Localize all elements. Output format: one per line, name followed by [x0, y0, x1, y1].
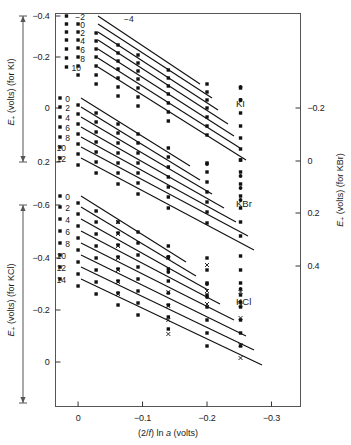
data-point	[167, 155, 170, 158]
data-point	[205, 115, 208, 118]
data-point	[94, 220, 97, 223]
annotation-ki-extra: −4	[124, 15, 134, 24]
data-point	[116, 171, 119, 174]
data-point	[76, 284, 79, 287]
data-point	[167, 195, 170, 198]
data-point	[65, 30, 68, 33]
data-point	[136, 230, 139, 233]
data-point	[205, 170, 208, 173]
data-point	[136, 104, 139, 107]
data-point	[65, 38, 68, 41]
data-point	[94, 256, 97, 259]
cross-data-point	[239, 356, 243, 360]
series-label-kcl-7: 14	[57, 276, 66, 285]
series-label-kbr-2: 4	[65, 114, 70, 123]
data-point	[116, 122, 119, 125]
left-bottom-axis-title: E+ (volts) (for KCl)	[7, 264, 18, 337]
data-point	[76, 46, 79, 49]
data-point	[205, 331, 208, 334]
data-point	[76, 22, 79, 25]
data-point	[94, 82, 97, 85]
data-point	[205, 98, 208, 101]
left-bottom-tick-label-0: −0.6	[33, 201, 50, 210]
fit-line-ki-2	[98, 32, 218, 110]
series-label-kcl-4: 8	[65, 240, 70, 249]
data-point	[65, 14, 68, 17]
data-point	[116, 85, 119, 88]
data-point	[205, 200, 208, 203]
fit-line-kbr-4	[81, 137, 236, 222]
left-bottom-tick-label-2: −0.2	[33, 306, 50, 315]
data-point	[76, 236, 79, 239]
data-point	[167, 165, 170, 168]
data-point	[205, 190, 208, 193]
data-point	[136, 289, 139, 292]
data-point	[136, 301, 139, 304]
data-point	[167, 92, 170, 95]
data-point	[239, 186, 243, 190]
data-point	[239, 281, 242, 284]
series-label-kbr-4: 8	[65, 134, 70, 143]
fit-line-ki-6	[98, 67, 246, 160]
cross-markers	[116, 220, 243, 360]
data-point	[136, 181, 139, 184]
data-point	[136, 61, 139, 64]
data-point	[94, 31, 97, 34]
data-point	[167, 146, 170, 149]
data-point	[205, 268, 208, 271]
right-axis-ticks	[296, 108, 301, 266]
data-point	[76, 112, 79, 115]
axis-range-brackets	[19, 16, 27, 403]
fit-lines	[81, 16, 262, 365]
data-point	[116, 161, 119, 164]
data-point	[167, 327, 170, 330]
data-point	[76, 152, 79, 155]
series-label-kcl-1: 2	[65, 204, 70, 213]
group-label-kbr: KBr	[236, 199, 252, 209]
group-label-ki: KI	[236, 99, 245, 109]
data-point	[136, 313, 139, 316]
fit-line-kcl-3	[81, 231, 220, 304]
data-point	[205, 90, 208, 93]
series-label-ki-6: 10	[72, 64, 81, 73]
series-label-kcl-5: 10	[57, 252, 66, 261]
data-point	[205, 124, 208, 127]
series-label-kcl-0: 0	[65, 193, 70, 202]
data-point	[58, 217, 61, 220]
data-point	[58, 194, 61, 197]
data-point	[205, 180, 208, 183]
data-point	[136, 141, 139, 144]
data-point	[136, 277, 139, 280]
data-point	[94, 64, 97, 67]
data-point	[58, 96, 61, 99]
data-point	[76, 163, 79, 166]
data-point	[239, 234, 242, 237]
data-point	[205, 318, 208, 321]
data-point	[94, 150, 97, 153]
data-point	[94, 171, 97, 174]
data-point	[239, 158, 242, 161]
data-point	[94, 55, 97, 58]
data-point	[136, 86, 139, 89]
data-point	[167, 279, 170, 282]
data-point	[136, 265, 139, 268]
data-point	[94, 140, 97, 143]
left-top-axis-ticks	[56, 16, 61, 162]
fit-line-ki-1	[98, 24, 212, 98]
data-point	[65, 47, 68, 50]
data-point	[76, 132, 79, 135]
cross-data-point	[166, 332, 170, 336]
data-point	[94, 120, 97, 123]
series-label-kcl-2: 4	[65, 216, 70, 225]
data-point	[239, 254, 242, 257]
group-label-kcl: KCl	[236, 297, 251, 307]
data-point	[205, 106, 208, 109]
data-point	[136, 95, 139, 98]
x-tick-label-2: −0.2	[199, 414, 216, 423]
data-point	[239, 111, 242, 114]
fit-line-kbr-6	[81, 158, 254, 250]
data-point	[167, 84, 170, 87]
data-point	[205, 221, 208, 224]
data-point	[94, 244, 97, 247]
x-axis-ticks	[78, 402, 271, 407]
